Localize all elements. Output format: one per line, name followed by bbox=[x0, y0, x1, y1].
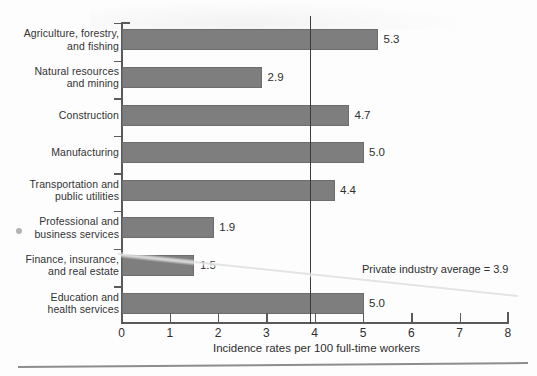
x-axis-tick-label: 3 bbox=[254, 326, 278, 340]
x-axis-tick bbox=[266, 313, 267, 322]
category-label-line: and fishing bbox=[0, 40, 119, 53]
x-axis-tick bbox=[170, 313, 171, 322]
x-axis-tick-label: 2 bbox=[206, 326, 230, 340]
private-industry-average-line bbox=[310, 16, 311, 324]
x-axis-line bbox=[121, 322, 509, 324]
bar bbox=[122, 105, 349, 126]
y-axis-tick bbox=[114, 23, 122, 24]
x-axis-tick bbox=[218, 313, 219, 322]
bar bbox=[122, 217, 214, 238]
category-label: Natural resourcesand mining bbox=[0, 65, 119, 90]
bar bbox=[122, 142, 364, 163]
bar bbox=[122, 255, 194, 276]
x-axis-tick bbox=[508, 313, 509, 322]
x-axis-tick bbox=[122, 313, 123, 322]
x-axis-tick-label: 4 bbox=[303, 326, 327, 340]
category-label-line: Manufacturing bbox=[0, 146, 119, 159]
x-axis-tick-label: 1 bbox=[158, 326, 182, 340]
y-axis-tick bbox=[114, 249, 122, 250]
x-axis-tick-label: 0 bbox=[110, 326, 134, 340]
y-axis-tick bbox=[114, 173, 122, 174]
category-label-line: public utilities bbox=[0, 190, 119, 203]
bar bbox=[122, 293, 364, 314]
category-label-line: health services bbox=[0, 303, 119, 316]
y-axis-tick bbox=[114, 286, 122, 287]
bar bbox=[122, 29, 378, 50]
x-axis-title: Incidence rates per 100 full-time worker… bbox=[0, 342, 537, 354]
category-label-line: Education and bbox=[0, 291, 119, 304]
category-label: Transportation andpublic utilities bbox=[0, 178, 119, 203]
category-label: Manufacturing bbox=[0, 146, 119, 159]
x-axis-tick-label: 6 bbox=[399, 326, 423, 340]
category-label-line: Construction bbox=[0, 109, 119, 122]
category-label: Agriculture, forestry,and fishing bbox=[0, 27, 119, 52]
bar-value-label: 5.0 bbox=[369, 146, 385, 158]
bar-chart: Agriculture, forestry,and fishing5.3Natu… bbox=[0, 0, 537, 376]
x-axis-tick bbox=[363, 313, 364, 322]
y-axis-top-cap bbox=[121, 22, 130, 24]
category-label: Finance, insurance,and real estate bbox=[0, 253, 119, 278]
category-label: Construction bbox=[0, 109, 119, 122]
category-label-line: and real estate bbox=[0, 265, 119, 278]
bar-value-label: 4.4 bbox=[340, 184, 356, 196]
bar-value-label: 5.3 bbox=[383, 33, 399, 45]
bar-value-label: 1.9 bbox=[219, 221, 235, 233]
x-axis-tick bbox=[411, 313, 412, 322]
category-label: Education andhealth services bbox=[0, 291, 119, 316]
x-axis-tick-label: 5 bbox=[351, 326, 375, 340]
bar-value-label: 2.9 bbox=[268, 71, 284, 83]
bar-value-label: 1.5 bbox=[200, 259, 216, 271]
y-axis-tick bbox=[114, 136, 122, 137]
y-axis-tick bbox=[114, 98, 122, 99]
bar bbox=[122, 67, 262, 88]
scan-speck-artifact bbox=[16, 228, 22, 234]
x-axis-tick bbox=[315, 313, 316, 322]
category-label-line: and mining bbox=[0, 77, 119, 90]
bar-value-label: 4.7 bbox=[355, 109, 371, 121]
category-label-line: Professional and bbox=[0, 215, 119, 228]
bar-value-label: 5.0 bbox=[369, 297, 385, 309]
category-label-line: Finance, insurance, bbox=[0, 253, 119, 266]
private-industry-average-label: Private industry average = 3.9 bbox=[362, 263, 508, 275]
x-axis-tick-label: 7 bbox=[448, 326, 472, 340]
y-axis-tick bbox=[114, 211, 122, 212]
category-label-line: Agriculture, forestry, bbox=[0, 27, 119, 40]
category-label-line: Transportation and bbox=[0, 178, 119, 191]
category-label-line: Natural resources bbox=[0, 65, 119, 78]
x-axis-tick-label: 8 bbox=[496, 326, 520, 340]
x-axis-tick bbox=[460, 313, 461, 322]
y-axis-tick bbox=[114, 61, 122, 62]
bar bbox=[122, 180, 335, 201]
